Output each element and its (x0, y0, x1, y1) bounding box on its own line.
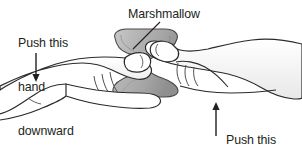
lower-hand-thumb (124, 53, 150, 73)
label-push-up-line1: Push this (226, 133, 276, 148)
label-push-down-line1: Push this (18, 36, 74, 51)
label-push-down-line2: hand (18, 80, 74, 95)
label-push-down-line3: downward (18, 124, 74, 139)
figure-canvas: Push this hand downward Marshmallow Push… (0, 0, 302, 159)
label-push-down: Push this hand downward (18, 7, 74, 159)
label-push-up: Push this hand upward (226, 104, 276, 159)
label-marshmallow: Marshmallow (128, 7, 200, 22)
